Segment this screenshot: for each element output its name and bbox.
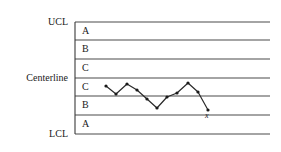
data-point [155, 106, 158, 109]
data-point [145, 97, 148, 100]
series-symbol-label: x [205, 112, 209, 120]
data-point [196, 90, 199, 93]
data-point [175, 91, 178, 94]
data-point [114, 92, 117, 95]
gridline-group [75, 22, 270, 134]
chart-canvas [0, 0, 281, 152]
data-point [186, 81, 189, 84]
data-point [165, 95, 168, 98]
data-point [135, 88, 138, 91]
data-point [104, 84, 107, 87]
spc-control-chart: UCL Centerline LCL A B C C B A [0, 0, 281, 152]
data-point [125, 82, 128, 85]
